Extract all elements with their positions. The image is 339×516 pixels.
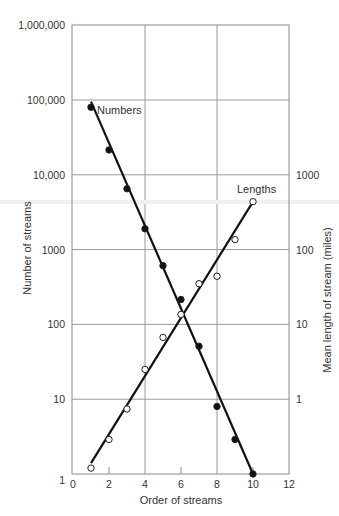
stream-order-chart: 024681012110100100010,000100,0001,000,00… bbox=[0, 0, 339, 516]
lengths-data-point bbox=[178, 311, 184, 317]
numbers-data-point bbox=[196, 343, 202, 349]
y-tick-label-right: 1000 bbox=[296, 169, 320, 181]
numbers-data-point bbox=[160, 262, 166, 268]
x-tick-label: 8 bbox=[214, 478, 220, 490]
x-tick-label: 10 bbox=[247, 478, 259, 490]
numbers-data-point bbox=[178, 296, 184, 302]
lengths-data-point bbox=[124, 406, 130, 412]
y-tick-label-left: 10,000 bbox=[33, 169, 65, 181]
y-tick-label-left: 1 bbox=[59, 474, 65, 486]
numbers-data-point bbox=[106, 147, 112, 153]
x-tick-label: 0 bbox=[70, 478, 76, 490]
scan-band bbox=[0, 200, 339, 204]
y-tick-label-left: 10 bbox=[53, 393, 65, 405]
lengths-data-point bbox=[250, 198, 256, 204]
lengths-fit-line bbox=[91, 202, 253, 463]
lengths-data-point bbox=[214, 273, 220, 279]
lengths-data-point bbox=[232, 236, 238, 242]
y-tick-label-left: 100,000 bbox=[27, 94, 65, 106]
lengths-series-label: Lengths bbox=[237, 183, 277, 195]
numbers-data-point bbox=[232, 436, 238, 442]
numbers-fit-line bbox=[91, 102, 253, 474]
lengths-data-point bbox=[88, 465, 94, 471]
axes: 024681012110100100010,000100,0001,000,00… bbox=[18, 19, 319, 490]
numbers-data-point bbox=[88, 104, 94, 110]
numbers-data-point bbox=[214, 403, 220, 409]
axis-labels: Order of streams Number of streams Mean … bbox=[21, 104, 333, 506]
numbers-series-label: Numbers bbox=[97, 104, 142, 116]
lengths-data-point bbox=[106, 436, 112, 442]
x-tick-label: 12 bbox=[283, 478, 295, 490]
lengths-data-point bbox=[160, 334, 166, 340]
y-tick-label-left: 1000 bbox=[42, 244, 66, 256]
x-tick-label: 4 bbox=[142, 478, 148, 490]
y-tick-label-right: 10 bbox=[296, 318, 308, 330]
numbers-data-point bbox=[250, 471, 256, 477]
lengths-data-point bbox=[196, 281, 202, 287]
fit-lines bbox=[91, 102, 253, 474]
numbers-data-point bbox=[142, 226, 148, 232]
x-axis-label: Order of streams bbox=[140, 494, 223, 506]
numbers-data-point bbox=[124, 186, 130, 192]
y-tick-label-right: 1 bbox=[296, 393, 302, 405]
y-tick-label-right: 100 bbox=[296, 244, 314, 256]
y-axis-label-right: Mean length of stream (miles) bbox=[321, 227, 333, 373]
x-tick-label: 6 bbox=[178, 478, 184, 490]
x-tick-label: 2 bbox=[106, 478, 112, 490]
y-tick-label-left: 100 bbox=[47, 318, 65, 330]
y-tick-label-left: 1,000,000 bbox=[18, 19, 65, 31]
lengths-data-point bbox=[142, 366, 148, 372]
y-axis-label-left: Number of streams bbox=[21, 201, 33, 295]
